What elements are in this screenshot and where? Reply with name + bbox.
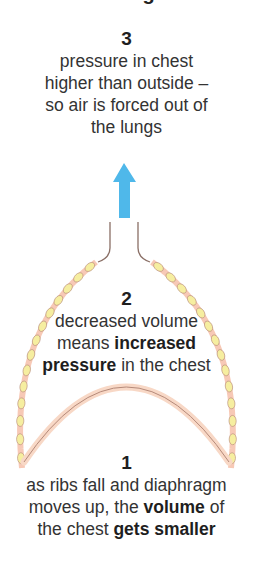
step-1: 1 as ribs fall and diaphragmmoves up, th…: [0, 452, 253, 540]
text-run: moves up, the: [29, 497, 144, 517]
text-line: the lungs: [0, 116, 253, 138]
text-run: higher than outside –: [45, 73, 208, 93]
step-text: as ribs fall and diaphragmmoves up, the …: [0, 474, 253, 540]
step-3: 3 pressure in chesthigher than outside –…: [0, 28, 253, 138]
text-line: pressure in chest: [0, 50, 253, 72]
text-run: as ribs fall and diaphragm: [26, 475, 226, 495]
text-run: the lungs: [91, 117, 162, 137]
text-line: means increased: [0, 332, 253, 354]
text-line: decreased volume: [0, 310, 253, 332]
text-line: so air is forced out of: [0, 94, 253, 116]
trachea-left-wall: [98, 222, 110, 262]
text-line: higher than outside –: [0, 72, 253, 94]
step-2: 2 decreased volumemeans increasedpressur…: [0, 288, 253, 376]
text-run: means: [57, 333, 114, 353]
step-text: decreased volumemeans increasedpressure …: [0, 310, 253, 376]
step-number: 1: [0, 452, 253, 474]
emphasis-text: increased: [114, 333, 196, 353]
step-number: 2: [0, 288, 253, 310]
text-run: pressure in chest: [60, 51, 193, 71]
text-run: decreased volume: [55, 311, 198, 331]
rib-segment: [227, 398, 235, 410]
rib-segment: [229, 415, 237, 426]
rib-segment: [16, 415, 24, 426]
text-line: moves up, the volume of: [0, 496, 253, 518]
rib-segment: [229, 434, 236, 445]
emphasis-text: pressure: [42, 355, 116, 375]
rib-segment: [16, 434, 23, 445]
emphasis-text: volume: [144, 497, 205, 517]
step-number: 3: [0, 28, 253, 50]
emphasis-text: gets smaller: [113, 519, 215, 539]
text-line: the chest gets smaller: [0, 518, 253, 540]
rib-segment: [17, 398, 25, 410]
text-run: the chest: [37, 519, 113, 539]
airflow-arrow-up-icon: [113, 163, 136, 218]
text-line: pressure in the chest: [0, 354, 253, 376]
trachea-right-wall: [138, 222, 150, 262]
text-run: so air is forced out of: [45, 95, 207, 115]
text-run: in the chest: [116, 355, 210, 375]
text-run: of: [205, 497, 224, 517]
step-text: pressure in chesthigher than outside –so…: [0, 50, 253, 138]
text-line: as ribs fall and diaphragm: [0, 474, 253, 496]
